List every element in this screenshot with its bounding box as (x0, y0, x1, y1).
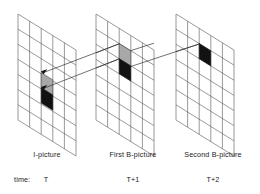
plane-first-b-picture-grid (96, 14, 154, 156)
plane-label-second-b-picture: Second B-picture (184, 150, 242, 159)
plane-second-b-picture-grid (176, 14, 234, 156)
plane-first-b-picture (96, 14, 154, 156)
plane-label-first-b-picture: First B-picture (110, 150, 157, 159)
figure-container: I-picture First B-picture Second B-pictu… (0, 0, 260, 194)
time-axis-label: time: (14, 175, 30, 184)
plane-i-picture (18, 14, 76, 156)
plane-second-b-picture-black-block (199, 44, 211, 66)
mpeg-prediction-diagram: I-picture First B-picture Second B-pictu… (0, 0, 260, 194)
time-tick-t: T (44, 175, 49, 184)
time-tick-t1: T+1 (126, 175, 139, 184)
plane-label-i-picture: I-picture (33, 150, 60, 159)
plane-second-b-picture (176, 14, 234, 156)
time-tick-t2: T+2 (206, 175, 219, 184)
